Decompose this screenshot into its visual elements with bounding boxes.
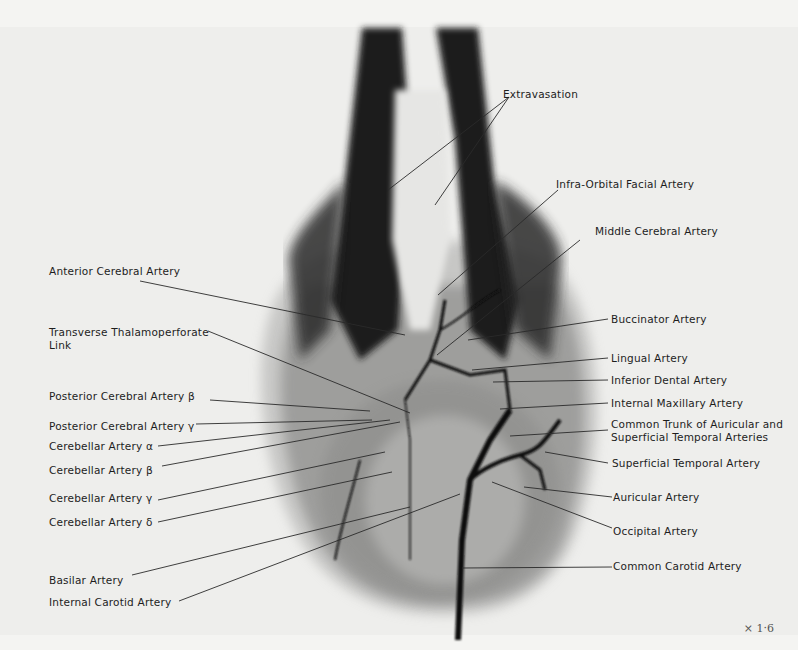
label-internal-carotid-artery: Internal Carotid Artery [49, 596, 171, 609]
label-cerebellar-artery-gamma: Cerebellar Artery γ [49, 492, 152, 505]
label-cerebellar-artery-delta: Cerebellar Artery δ [49, 516, 153, 529]
label-buccinator-artery: Buccinator Artery [611, 313, 707, 326]
label-auricular-artery: Auricular Artery [613, 491, 699, 504]
label-basilar-artery: Basilar Artery [49, 574, 123, 587]
label-anterior-cerebral-artery: Anterior Cerebral Artery [49, 265, 180, 278]
label-middle-cerebral-artery: Middle Cerebral Artery [595, 225, 718, 238]
label-transverse-thalamoperforate-link: Transverse Thalamoperforate Link [49, 326, 209, 352]
label-posterior-cerebral-artery-gamma: Posterior Cerebral Artery γ [49, 420, 194, 433]
label-common-trunk: Common Trunk of Auricular and Superficia… [611, 418, 791, 444]
anatomical-figure: Extravasation Infra-Orbital Facial Arter… [0, 0, 798, 650]
label-superficial-temporal-artery: Superficial Temporal Artery [612, 457, 760, 470]
label-inferior-dental-artery: Inferior Dental Artery [611, 374, 727, 387]
label-occipital-artery: Occipital Artery [613, 525, 698, 538]
label-posterior-cerebral-artery-beta: Posterior Cerebral Artery β [49, 390, 195, 403]
label-infra-orbital-facial-artery: Infra-Orbital Facial Artery [556, 178, 694, 191]
label-cerebellar-artery-beta: Cerebellar Artery β [49, 464, 153, 477]
label-lingual-artery: Lingual Artery [611, 352, 688, 365]
label-extravasation: Extravasation [503, 88, 578, 101]
magnification-label: × 1·6 [744, 622, 774, 635]
label-internal-maxillary-artery: Internal Maxillary Artery [611, 397, 743, 410]
label-common-carotid-artery: Common Carotid Artery [613, 560, 742, 573]
label-cerebellar-artery-alpha: Cerebellar Artery α [49, 440, 153, 453]
